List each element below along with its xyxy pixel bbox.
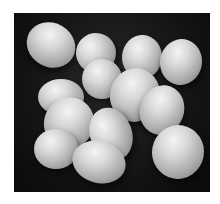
egg [34, 129, 78, 169]
egg [156, 36, 205, 89]
egg [18, 13, 83, 76]
image-subject: Pile of white eggs on a dark background [0, 0, 1, 1]
egg-photo [14, 13, 210, 192]
